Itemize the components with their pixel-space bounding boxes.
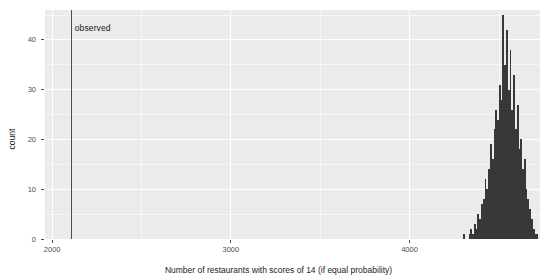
y-tick-mark-30 [41, 89, 44, 90]
y-tick-label-40: 40 [20, 35, 36, 44]
y-tick-label-30: 30 [20, 85, 36, 94]
y-tick-label-10: 10 [20, 185, 36, 194]
y-axis-title: count [7, 128, 17, 149]
y-tick-mark-20 [41, 139, 44, 140]
observed-annotation-label: observed [75, 23, 111, 33]
y-tick-mark-10 [41, 189, 44, 190]
histogram-bar [463, 234, 465, 239]
y-tick-mark-40 [41, 39, 44, 40]
x-tick-mark-4000 [409, 240, 410, 243]
plot-panel [45, 10, 540, 239]
histogram-bar [536, 234, 538, 239]
histogram-figure: observed 010203040 200030004000 count Nu… [0, 0, 557, 277]
x-tick-label-4000: 4000 [390, 245, 430, 254]
y-tick-mark-0 [41, 239, 44, 240]
observed-vline [71, 10, 72, 239]
x-tick-mark-3000 [230, 240, 231, 243]
histogram-bars [45, 10, 540, 239]
x-tick-mark-2000 [52, 240, 53, 243]
x-tick-label-3000: 3000 [211, 245, 251, 254]
y-tick-label-0: 0 [20, 235, 36, 244]
x-tick-label-2000: 2000 [32, 245, 72, 254]
x-axis-title: Number of restaurants with scores of 14 … [0, 265, 557, 275]
y-tick-label-20: 20 [20, 135, 36, 144]
